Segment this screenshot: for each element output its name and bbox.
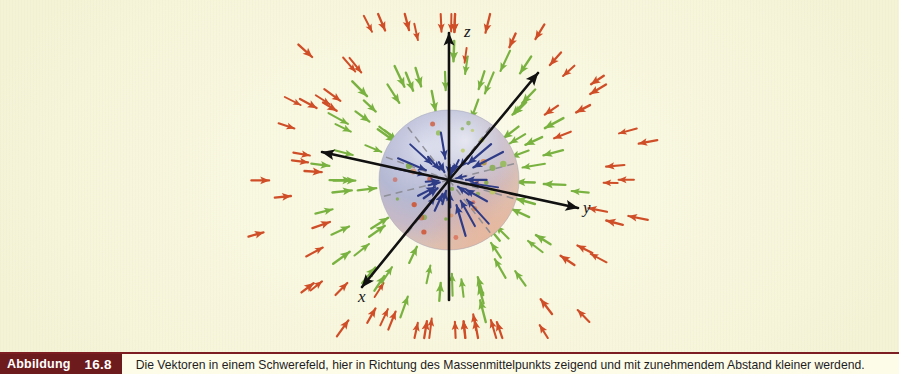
field-vector	[298, 45, 312, 57]
field-vector	[275, 196, 291, 198]
figure-number-badge: Abbildung 16.8	[0, 354, 122, 374]
field-vector	[285, 97, 301, 105]
sphere-speckle	[450, 187, 454, 191]
field-vector	[619, 129, 637, 134]
field-vector	[550, 52, 561, 65]
sphere-speckle	[396, 197, 399, 200]
field-vector	[606, 165, 624, 167]
sphere-speckle	[444, 217, 447, 220]
field-vector	[364, 16, 372, 32]
field-vector	[426, 181, 439, 182]
field-vector	[249, 232, 264, 236]
caption-tag-number: 16.8	[85, 357, 112, 372]
field-vector	[486, 14, 491, 33]
field-vector	[540, 325, 548, 338]
field-vector	[497, 322, 502, 338]
field-vector	[445, 72, 446, 90]
field-vector	[563, 66, 574, 76]
sphere-speckle	[412, 202, 417, 207]
figure-caption-bar: Abbildung 16.8 Die Vektoren in einem Sch…	[0, 352, 899, 374]
field-vector	[628, 216, 647, 220]
caption-tag-word: Abbildung	[7, 357, 71, 371]
figure-canvas: z y x	[0, 0, 899, 352]
field-vector	[405, 14, 409, 30]
field-vector	[367, 308, 375, 322]
field-vector	[439, 283, 440, 301]
axis-label-x: x	[358, 288, 366, 305]
sphere-speckle	[453, 235, 458, 240]
field-vector	[578, 310, 590, 322]
sphere-speckle	[430, 122, 435, 127]
field-vector	[452, 274, 453, 296]
sphere-speckle	[471, 200, 475, 204]
field-vector	[454, 14, 455, 32]
figure-16-8: z y x Abbildung 16.8 Die Vektoren in ein…	[0, 0, 899, 374]
figure-caption-text: Die Vektoren in einem Schwerefeld, hier …	[122, 354, 865, 373]
field-vector	[535, 24, 544, 39]
sphere-speckle	[421, 229, 426, 234]
field-vector	[337, 320, 349, 336]
field-vector	[591, 254, 607, 262]
field-vector	[279, 123, 295, 128]
field-vector	[591, 76, 604, 85]
sphere-speckle	[471, 129, 474, 132]
sphere-speckle	[489, 165, 495, 171]
field-vector	[606, 221, 623, 225]
sphere-speckle	[461, 149, 465, 153]
vector-field-illustration	[0, 0, 899, 352]
sphere-speckle	[484, 181, 489, 186]
field-vector	[590, 84, 606, 94]
field-vector	[544, 184, 566, 185]
sphere-speckle	[393, 177, 398, 182]
field-vector	[541, 299, 552, 314]
field-vector	[454, 41, 455, 61]
field-vector	[300, 99, 317, 108]
axis-label-z: z	[464, 23, 471, 40]
sphere-speckle	[461, 127, 465, 131]
field-vector	[378, 14, 385, 31]
sphere-speckle	[500, 161, 506, 167]
axis-label-y: y	[583, 199, 591, 216]
field-vector	[305, 171, 322, 172]
field-vector	[336, 283, 348, 295]
field-vector	[455, 322, 456, 338]
field-vector	[441, 14, 442, 32]
sphere-speckle	[466, 121, 471, 126]
field-vector	[639, 140, 658, 144]
field-vector	[302, 283, 314, 292]
